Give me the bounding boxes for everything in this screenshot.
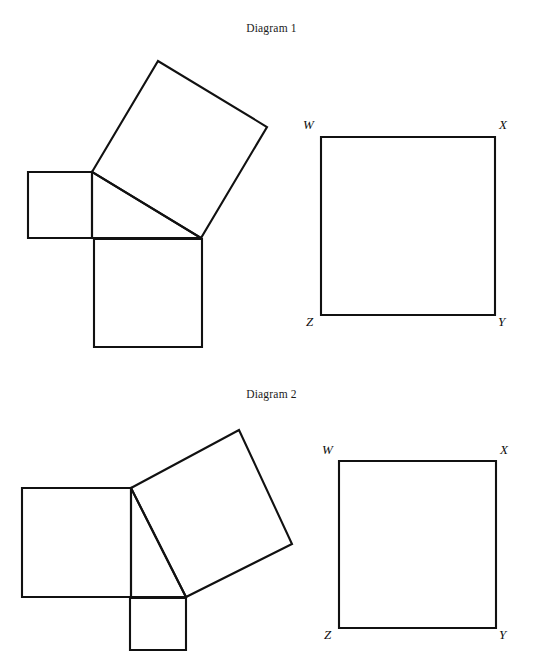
figures-canvas xyxy=(0,0,543,670)
d2-vertex-label-w: W xyxy=(322,443,333,456)
diagram-1-square-wxyz xyxy=(321,137,495,315)
diagram-1-left-figure xyxy=(28,61,267,347)
d2-small-square-short-leg xyxy=(130,598,186,650)
d1-vertex-label-y: Y xyxy=(498,315,505,328)
document-page: Diagram 1 Diagram 2 W X Z Y W X xyxy=(0,0,543,670)
d2-vertex-label-y: Y xyxy=(499,628,506,641)
d1-vertex-label-x: X xyxy=(499,118,507,131)
diagram-2-caption: Diagram 2 xyxy=(0,388,543,400)
d2-large-square-long-leg xyxy=(22,488,131,597)
diagram-2-square-wxyz xyxy=(339,461,496,628)
d2-vertex-label-x: X xyxy=(500,443,508,456)
d1-triangle-hypotenuse xyxy=(92,172,201,238)
d1-vertex-label-w: W xyxy=(303,118,314,131)
d1-tilted-square-hypotenuse xyxy=(92,61,267,238)
diagram-2-left-figure xyxy=(22,430,292,650)
d1-vertex-label-z: Z xyxy=(306,315,313,328)
d2-square-wxyz-outline xyxy=(339,461,496,628)
d1-bottom-square-long-leg xyxy=(94,239,202,347)
d1-small-square-left xyxy=(28,172,92,238)
d1-square-wxyz-outline xyxy=(321,137,495,315)
d2-tilted-square-hypotenuse xyxy=(131,430,292,597)
d2-triangle-hypotenuse xyxy=(131,488,186,597)
diagram-1-caption: Diagram 1 xyxy=(0,22,543,34)
d2-vertex-label-z: Z xyxy=(324,628,331,641)
